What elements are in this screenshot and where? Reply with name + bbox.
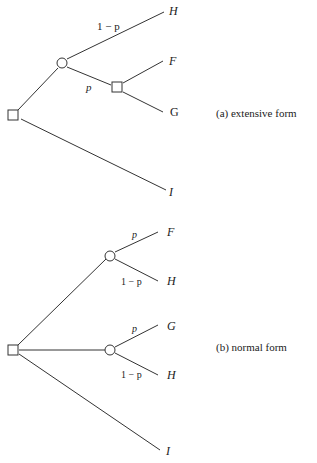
edge-root-chance xyxy=(18,68,58,110)
second-decision-node xyxy=(112,82,122,92)
leaf-G: G xyxy=(170,105,179,119)
leaf-I: I xyxy=(168,185,174,199)
edge-decision-G xyxy=(123,92,163,112)
edge-label-top-p: p xyxy=(131,229,137,240)
chance-node-mid xyxy=(105,345,115,355)
edge-root-top-chance xyxy=(18,259,106,345)
edge-root-I xyxy=(21,119,166,190)
leaf-H: H xyxy=(168,4,179,18)
root-decision-node xyxy=(8,110,18,120)
edge-label-top-1-p: 1 − p xyxy=(121,276,142,287)
edge-decision-F xyxy=(123,61,163,83)
leaf-H1-b: H xyxy=(166,274,177,288)
leaf-I-b: I xyxy=(165,444,171,458)
leaf-F-b: F xyxy=(166,225,175,239)
decision-tree-figure: 1 − p p H F G I (a) extensive form p 1 −… xyxy=(0,0,317,463)
chance-node-top xyxy=(105,251,115,261)
edge-label-p: p xyxy=(85,81,92,93)
caption-normal: (b) normal form xyxy=(216,341,287,354)
edge-label-mid-1-p: 1 − p xyxy=(121,369,142,380)
leaf-F: F xyxy=(168,54,177,68)
caption-extensive: (a) extensive form xyxy=(216,107,297,120)
leaf-H2-b: H xyxy=(166,368,177,382)
root-decision-node-b xyxy=(8,345,18,355)
leaf-G-b: G xyxy=(167,319,176,333)
edge-label-1-p: 1 − p xyxy=(97,20,120,32)
chance-node xyxy=(57,58,67,68)
edge-label-mid-p: p xyxy=(131,323,137,334)
